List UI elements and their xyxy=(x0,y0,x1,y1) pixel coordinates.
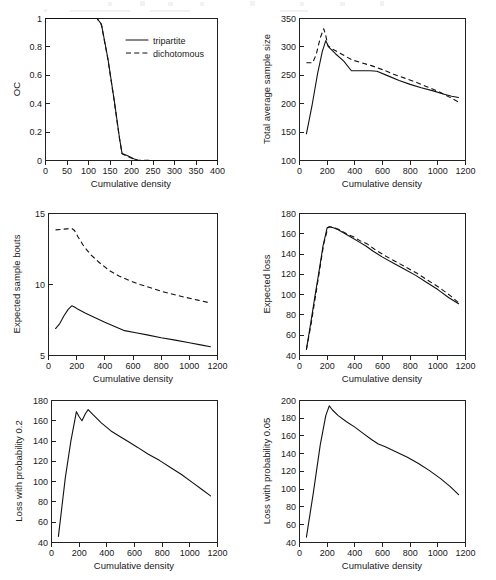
svg-text:0.8: 0.8 xyxy=(29,42,42,52)
svg-text:800: 800 xyxy=(403,361,418,371)
svg-text:200: 200 xyxy=(320,361,335,371)
svg-text:600: 600 xyxy=(125,361,140,371)
svg-text:1000: 1000 xyxy=(428,166,448,176)
svg-text:100: 100 xyxy=(281,156,296,166)
svg-text:0: 0 xyxy=(297,166,302,176)
svg-text:140: 140 xyxy=(281,249,296,259)
panel3-ytick-labels: 5 10 15 xyxy=(35,209,45,361)
panel3-xtick-labels: 0 200 400 600 800 1000 1200 xyxy=(46,361,228,371)
panel4-xticks xyxy=(300,356,466,360)
svg-text:800: 800 xyxy=(403,548,418,558)
svg-text:200: 200 xyxy=(124,166,139,176)
svg-text:250: 250 xyxy=(281,70,296,80)
svg-text:180: 180 xyxy=(281,209,296,219)
svg-text:60: 60 xyxy=(38,517,48,527)
panel4-xlabel: Cumulative density xyxy=(342,373,423,384)
svg-text:1200: 1200 xyxy=(455,548,475,558)
svg-text:600: 600 xyxy=(375,361,390,371)
svg-text:350: 350 xyxy=(281,14,296,24)
svg-text:300: 300 xyxy=(167,166,182,176)
panel2-plot-area xyxy=(306,29,458,134)
svg-text:400: 400 xyxy=(347,548,362,558)
svg-text:140: 140 xyxy=(33,436,48,446)
svg-text:40: 40 xyxy=(38,538,48,548)
panel-oc-xtick-labels: 0 50 100 150 200 250 300 350 400 xyxy=(43,166,225,176)
panel-oc: 0 0.2 0.4 0.6 0.8 1 0 50 10 xyxy=(0,0,248,193)
panel4-ytick-labels: 40 60 80 100 120 140 160 180 xyxy=(281,209,296,361)
svg-text:300: 300 xyxy=(281,42,296,52)
panel3-plot-area xyxy=(56,228,211,346)
panel-loss-probability-02: 40 60 80 100 120 140 160 180 0 200 xyxy=(0,386,248,579)
panel3-yticks xyxy=(49,214,53,356)
panel5-yticks xyxy=(52,401,56,543)
svg-text:80: 80 xyxy=(286,310,296,320)
panel2-ytick-labels: 100 150 200 250 300 350 xyxy=(281,14,296,166)
panel5-xticks xyxy=(52,543,218,547)
svg-text:0.6: 0.6 xyxy=(29,70,42,80)
svg-text:0.2: 0.2 xyxy=(29,127,42,137)
svg-text:1000: 1000 xyxy=(428,548,448,558)
legend-label-dichotomous: dichotomous xyxy=(153,49,205,59)
svg-text:600: 600 xyxy=(127,548,142,558)
svg-text:400: 400 xyxy=(99,548,114,558)
panel6-plot-area xyxy=(306,406,458,537)
svg-text:160: 160 xyxy=(281,431,296,441)
svg-text:0: 0 xyxy=(37,156,42,166)
panel6-xticks xyxy=(300,543,466,547)
svg-text:800: 800 xyxy=(154,361,169,371)
panel4-series-tripartite xyxy=(306,227,458,350)
panel3-xlabel: Cumulative density xyxy=(93,373,174,384)
svg-text:1200: 1200 xyxy=(207,548,227,558)
svg-text:200: 200 xyxy=(281,99,296,109)
panel4-yticks xyxy=(300,214,304,356)
svg-text:1200: 1200 xyxy=(455,361,475,371)
svg-text:400: 400 xyxy=(347,361,362,371)
panel4-ylabel: Expected loss xyxy=(261,254,272,313)
svg-text:1200: 1200 xyxy=(207,361,227,371)
svg-text:10: 10 xyxy=(35,280,45,290)
svg-text:120: 120 xyxy=(281,269,296,279)
svg-text:50: 50 xyxy=(62,166,72,176)
svg-text:1200: 1200 xyxy=(455,166,475,176)
svg-text:1000: 1000 xyxy=(428,361,448,371)
svg-text:0: 0 xyxy=(43,166,48,176)
svg-text:800: 800 xyxy=(155,548,170,558)
panel3-ylabel: Expected sample bouts xyxy=(11,234,22,333)
panel5-xtick-labels: 0 200 400 600 800 1000 1200 xyxy=(49,548,228,558)
svg-text:60: 60 xyxy=(286,330,296,340)
svg-text:600: 600 xyxy=(375,166,390,176)
svg-text:40: 40 xyxy=(286,538,296,548)
svg-text:140: 140 xyxy=(281,449,296,459)
svg-text:0: 0 xyxy=(49,548,54,558)
panel2-xlabel: Cumulative density xyxy=(342,178,423,189)
panel3-series-tripartite xyxy=(56,306,211,347)
panel3-series-dichotomous xyxy=(56,228,211,303)
svg-text:400: 400 xyxy=(347,166,362,176)
svg-text:1000: 1000 xyxy=(179,361,199,371)
panel2-series-dichotomous xyxy=(306,29,458,102)
svg-text:15: 15 xyxy=(35,209,45,219)
panel4-xtick-labels: 0 200 400 600 800 1000 1200 xyxy=(297,361,476,371)
panel-expected-sample-bouts: 5 10 15 0 200 400 600 800 1000 1200 xyxy=(0,193,248,386)
svg-text:0: 0 xyxy=(297,361,302,371)
svg-text:1000: 1000 xyxy=(180,548,200,558)
panel5-ytick-labels: 40 60 80 100 120 140 160 180 xyxy=(33,396,48,548)
legend-label-tripartite: tripartite xyxy=(153,36,186,46)
svg-text:5: 5 xyxy=(40,351,45,361)
svg-text:100: 100 xyxy=(281,290,296,300)
svg-text:200: 200 xyxy=(281,396,296,406)
panel-loss-probability-005: 40 60 80 100 120 140 160 180 200 0 xyxy=(248,386,496,579)
svg-text:250: 250 xyxy=(145,166,160,176)
svg-text:180: 180 xyxy=(281,413,296,423)
panel2-xticks xyxy=(300,161,466,165)
svg-text:150: 150 xyxy=(281,127,296,137)
panel2-ylabel: Total average sample size xyxy=(261,34,272,144)
panel6-ytick-labels: 40 60 80 100 120 140 160 180 200 xyxy=(281,396,296,548)
panel2-xtick-labels: 0 200 400 600 800 1000 1200 xyxy=(297,166,476,176)
panel-oc-xlabel: Cumulative density xyxy=(91,178,172,189)
svg-text:200: 200 xyxy=(320,166,335,176)
panel6-series-tripartite xyxy=(306,406,458,537)
svg-text:100: 100 xyxy=(281,484,296,494)
panel5-xlabel: Cumulative density xyxy=(94,560,175,571)
svg-text:350: 350 xyxy=(188,166,203,176)
